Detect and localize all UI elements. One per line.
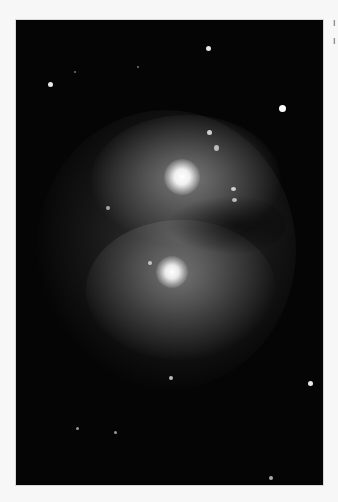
arm-knot [214,145,219,151]
star [269,476,273,480]
arm-knot [106,206,110,210]
upper-galaxy-disc [91,115,281,245]
arm-knot [231,187,236,191]
star [48,82,53,87]
cropped-caption-line-1: I [333,18,338,28]
cropped-caption-line-2: I [333,36,338,46]
galaxy-photo [16,20,323,485]
star [206,46,211,51]
star [279,105,286,112]
lower-galaxy-disc [86,220,276,360]
dust-lane [166,195,286,255]
star [74,71,76,73]
star [169,376,173,380]
star [137,66,139,68]
star [76,427,79,430]
star [308,381,313,386]
arm-knot [148,261,152,265]
lower-galaxy-core [156,256,188,288]
arm-knot [232,198,237,202]
star [114,431,117,434]
upper-galaxy-core [164,159,200,195]
galaxy-halo [36,110,296,390]
arm-knot [207,130,212,135]
